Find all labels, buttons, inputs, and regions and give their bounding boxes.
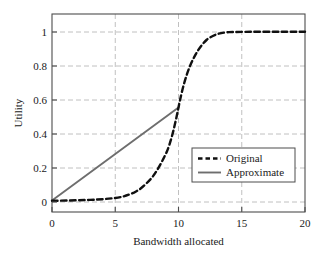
- y-tick-label-0-4: 0.4: [33, 128, 47, 140]
- x-tick-label-5: 5: [113, 217, 119, 229]
- y-tick-label-0-6: 0.6: [33, 94, 47, 106]
- x-tick-label-0: 0: [49, 217, 55, 229]
- x-tick-label-20: 20: [300, 217, 312, 229]
- x-tick-label-15: 15: [236, 217, 248, 229]
- chart-figure: 1 0.8 0.6 0.4 0.2 0 0 5 10 15 20 Bandwid…: [0, 0, 322, 257]
- y-tick-label-0-8: 0.8: [33, 60, 47, 72]
- legend-label-approximate: Approximate: [226, 166, 284, 178]
- y-axis-title: Utility: [12, 98, 24, 127]
- y-tick-label-0: 0: [42, 196, 48, 208]
- y-tick-label-0-2: 0.2: [33, 162, 47, 174]
- x-tick-label-10: 10: [173, 217, 185, 229]
- x-axis-title: Bandwidth allocated: [133, 235, 224, 247]
- legend-label-original: Original: [226, 152, 263, 164]
- chart-canvas: 1 0.8 0.6 0.4 0.2 0 0 5 10 15 20 Bandwid…: [0, 0, 322, 257]
- y-tick-label-1: 1: [42, 26, 48, 38]
- legend: Original Approximate: [192, 148, 295, 182]
